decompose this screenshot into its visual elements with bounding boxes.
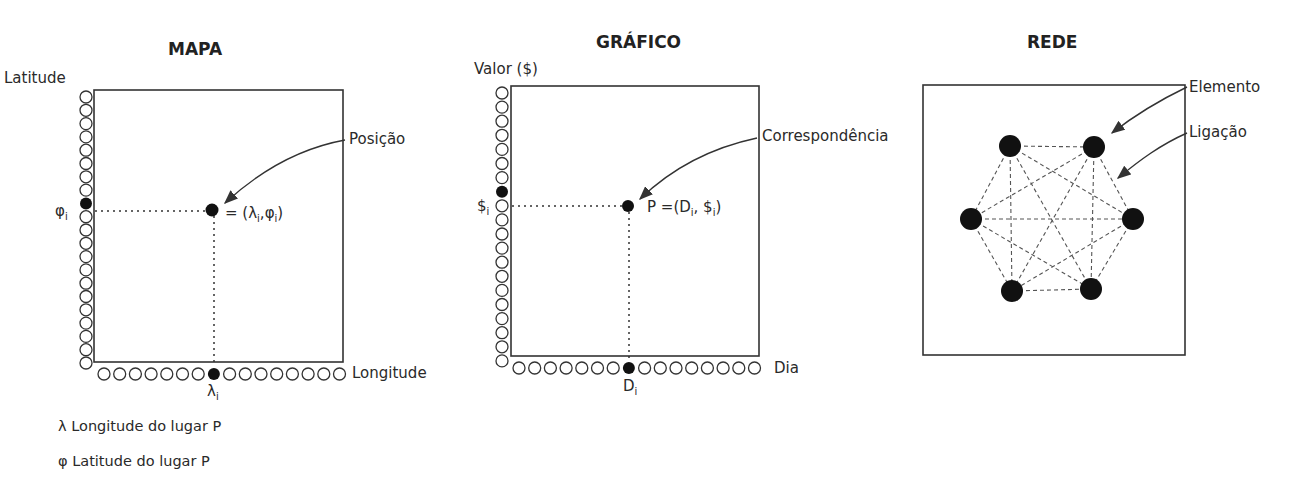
axis-marker-open bbox=[496, 355, 508, 367]
network-link bbox=[1091, 219, 1133, 289]
axis-marker-open bbox=[286, 368, 298, 380]
map-latitude-marker: φi bbox=[55, 202, 68, 222]
graph-title: GRÁFICO bbox=[596, 31, 681, 52]
axis-marker-open bbox=[80, 264, 92, 276]
axis-marker-open bbox=[560, 362, 572, 374]
axis-marker-open bbox=[592, 362, 604, 374]
network-panel: REDE Elemento Ligação bbox=[923, 32, 1260, 355]
axis-marker-open bbox=[496, 87, 508, 99]
axis-marker-open bbox=[80, 251, 92, 263]
network-edges bbox=[971, 146, 1133, 291]
axis-marker-open bbox=[177, 368, 189, 380]
network-element bbox=[960, 208, 982, 230]
graph-day-circles bbox=[513, 362, 761, 374]
axis-marker-filled bbox=[80, 197, 92, 209]
graph-y-axis-label: Valor ($) bbox=[474, 60, 538, 78]
axis-marker-open bbox=[654, 362, 666, 374]
lambda-symbol: λ bbox=[58, 418, 67, 434]
axis-marker-open bbox=[607, 362, 619, 374]
axis-marker-open bbox=[496, 101, 508, 113]
axis-marker-open bbox=[749, 362, 761, 374]
map-longitude-marker: λi bbox=[207, 382, 219, 402]
map-title: MAPA bbox=[168, 39, 223, 59]
link-label: Ligação bbox=[1189, 123, 1247, 141]
map-position-label: Posição bbox=[349, 130, 405, 148]
axis-marker-open bbox=[717, 362, 729, 374]
axis-marker-open bbox=[80, 158, 92, 170]
axis-marker-open bbox=[496, 284, 508, 296]
axis-marker-open bbox=[496, 143, 508, 155]
network-link bbox=[1094, 147, 1133, 219]
axis-marker-open bbox=[80, 104, 92, 116]
axis-marker-open bbox=[80, 184, 92, 196]
axis-marker-open bbox=[496, 341, 508, 353]
axis-marker-open bbox=[80, 144, 92, 156]
legend-latitude-text: Latitude do lugar P bbox=[72, 453, 210, 469]
axis-marker-open bbox=[529, 362, 541, 374]
map-y-axis-label: Latitude bbox=[4, 69, 66, 87]
axis-marker-open bbox=[80, 344, 92, 356]
axis-marker-open bbox=[496, 270, 508, 282]
axis-marker-open bbox=[80, 304, 92, 316]
axis-marker-open bbox=[686, 362, 698, 374]
axis-marker-open bbox=[496, 115, 508, 127]
axis-marker-open bbox=[496, 327, 508, 339]
legend-longitude-text: Longitude do lugar P bbox=[71, 418, 221, 434]
graph-value-circles bbox=[496, 87, 508, 367]
axis-marker-open bbox=[701, 362, 713, 374]
axis-marker-open bbox=[145, 368, 157, 380]
network-link bbox=[971, 219, 1012, 291]
axis-marker-open bbox=[80, 357, 92, 369]
axis-marker-open bbox=[334, 368, 346, 380]
axis-marker-open bbox=[496, 214, 508, 226]
axis-marker-open bbox=[80, 211, 92, 223]
axis-marker-open bbox=[114, 368, 126, 380]
graph-frame bbox=[511, 86, 759, 356]
axis-marker-open bbox=[255, 368, 267, 380]
axis-marker-open bbox=[98, 368, 110, 380]
graph-correspondence-label: Correspondência bbox=[762, 127, 889, 145]
network-link bbox=[971, 219, 1091, 289]
element-label: Elemento bbox=[1189, 78, 1260, 96]
axis-marker-open bbox=[80, 118, 92, 130]
axis-marker-open bbox=[496, 313, 508, 325]
axis-marker-open bbox=[80, 131, 92, 143]
network-element bbox=[1122, 208, 1144, 230]
map-panel: MAPA Latitude Posição = (λi,φi) φi Longi… bbox=[4, 39, 427, 402]
graph-correspondence-point bbox=[622, 200, 634, 212]
map-longitude-circles bbox=[98, 368, 346, 380]
axis-marker-open bbox=[496, 242, 508, 254]
network-link bbox=[1010, 146, 1091, 289]
network-link bbox=[1012, 219, 1133, 291]
network-element bbox=[1083, 136, 1105, 158]
link-arrow bbox=[1118, 133, 1187, 178]
network-element bbox=[999, 135, 1021, 157]
phi-symbol: φ bbox=[58, 453, 68, 469]
map-point-formula: = (λi,φi) bbox=[225, 204, 283, 224]
axis-marker-open bbox=[271, 368, 283, 380]
axis-marker-open bbox=[733, 362, 745, 374]
graph-value-marker: $i bbox=[477, 197, 489, 217]
axis-marker-filled bbox=[208, 368, 220, 380]
network-element bbox=[1001, 280, 1023, 302]
map-frame bbox=[94, 90, 343, 362]
axis-marker-open bbox=[302, 368, 314, 380]
map-x-axis-label: Longitude bbox=[352, 364, 427, 382]
axis-marker-open bbox=[161, 368, 173, 380]
axis-marker-open bbox=[80, 277, 92, 289]
map-position-point bbox=[206, 204, 219, 217]
network-link bbox=[1010, 146, 1012, 291]
axis-marker-open bbox=[544, 362, 556, 374]
axis-marker-open bbox=[192, 368, 204, 380]
axis-marker-open bbox=[639, 362, 651, 374]
network-link bbox=[1010, 146, 1094, 147]
network-link bbox=[1091, 147, 1094, 289]
network-link bbox=[1010, 146, 1133, 219]
axis-marker-open bbox=[670, 362, 682, 374]
graph-day-marker: Di bbox=[623, 377, 637, 397]
axis-marker-open bbox=[496, 200, 508, 212]
axis-marker-open bbox=[80, 91, 92, 103]
axis-marker-open bbox=[80, 237, 92, 249]
axis-marker-open bbox=[80, 330, 92, 342]
network-element bbox=[1080, 278, 1102, 300]
